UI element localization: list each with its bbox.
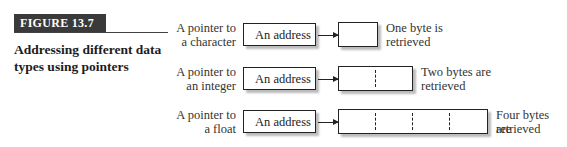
result-line2: retrieved <box>386 35 430 49</box>
pointer-label-character: A pointer to a character <box>150 21 236 51</box>
arrow-icon <box>318 79 338 80</box>
result-line1: One byte is <box>386 21 443 35</box>
pointer-label-line2: a float <box>204 122 236 136</box>
memory-box-2-bytes <box>338 66 413 91</box>
pointer-label-float: A pointer to a float <box>150 108 236 138</box>
arrow-icon <box>318 35 338 36</box>
figure-label: FIGURE 13.7 <box>14 14 106 32</box>
byte-divider <box>375 70 376 87</box>
arrow-icon <box>318 122 338 123</box>
byte-divider <box>449 113 450 130</box>
address-box: An address <box>243 110 316 133</box>
pointer-label-line1: A pointer to <box>176 108 236 122</box>
byte-divider <box>375 113 376 130</box>
pointer-label-line1: A pointer to <box>176 21 236 35</box>
memory-box-1-byte <box>338 22 378 47</box>
result-line2: retrieved <box>421 79 465 93</box>
address-box: An address <box>243 23 316 46</box>
pointer-label-line2: a character <box>182 35 236 49</box>
byte-divider <box>412 113 413 130</box>
address-box: An address <box>243 67 316 90</box>
pointer-label-integer: A pointer to an integer <box>150 65 236 95</box>
figure-rule <box>14 32 168 33</box>
result-line2: retrieved <box>496 122 540 136</box>
pointer-label-line1: A pointer to <box>176 65 236 79</box>
result-line1: Two bytes are <box>421 65 491 79</box>
memory-box-4-bytes <box>338 109 488 134</box>
pointer-label-line2: an integer <box>186 79 236 93</box>
